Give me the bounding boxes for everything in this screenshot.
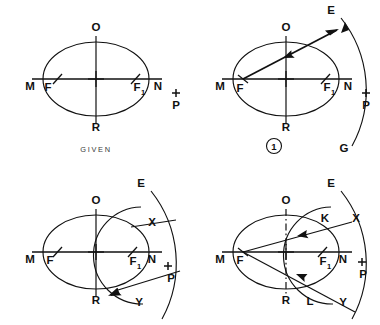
label-G: G <box>340 142 349 154</box>
label-P: P <box>172 99 180 111</box>
label-N: N <box>148 253 156 265</box>
step-number-label: 1 <box>271 141 277 152</box>
label-R: R <box>282 294 291 306</box>
label-O: O <box>282 21 291 33</box>
label-M: M <box>25 253 35 265</box>
label-R: R <box>282 121 291 133</box>
label-F: F <box>46 254 53 266</box>
label-P: P <box>167 272 175 284</box>
label-M: M <box>25 80 35 92</box>
line-F-to-X <box>243 222 352 252</box>
label-F1-subscript: 1 <box>141 88 145 97</box>
label-F1: F <box>129 255 136 267</box>
label-F1: F <box>319 255 326 267</box>
label-X: X <box>148 216 156 228</box>
label-N: N <box>344 80 352 92</box>
label-N: N <box>154 80 162 92</box>
label-O: O <box>92 194 101 206</box>
panel-caption-given: GIVEN <box>80 145 112 154</box>
label-F1-subscript: 1 <box>331 88 335 97</box>
label-F1: F <box>133 81 140 93</box>
label-M: M <box>215 253 225 265</box>
label-F: F <box>44 81 51 93</box>
label-R: R <box>92 121 101 133</box>
label-F1-subscript: 1 <box>327 262 331 271</box>
panel-3: M F F 1 N O R E X Y K L P <box>215 177 367 319</box>
direction-flag-upper <box>296 230 309 241</box>
panel-1: M F F 1 N O R E G P 1 <box>215 4 370 154</box>
figure-root: M F F 1 N O R P GIVEN M <box>0 0 380 325</box>
label-K: K <box>321 212 330 224</box>
label-F1: F <box>323 81 330 93</box>
label-E: E <box>327 177 335 189</box>
label-X: X <box>352 212 360 224</box>
label-R: R <box>92 294 101 306</box>
panel-given: M F F 1 N O R P GIVEN <box>25 21 180 154</box>
label-Y: Y <box>135 296 143 308</box>
label-F: F <box>236 82 243 94</box>
label-O: O <box>282 194 291 206</box>
label-P: P <box>359 268 367 280</box>
label-O: O <box>92 21 101 33</box>
label-Y: Y <box>339 296 347 308</box>
label-E: E <box>327 4 335 16</box>
panel-2: M F F 1 N O R E X Y P <box>25 177 180 319</box>
label-F1-subscript: 1 <box>137 262 141 271</box>
label-E: E <box>137 177 145 189</box>
label-M: M <box>215 80 225 92</box>
label-F: F <box>236 254 243 266</box>
label-P: P <box>362 99 370 111</box>
label-N: N <box>339 253 347 265</box>
label-L: L <box>306 295 313 307</box>
construction-diagram: M F F 1 N O R P GIVEN M <box>0 0 380 325</box>
